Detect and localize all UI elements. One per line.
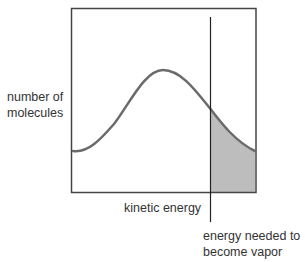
threshold-label-line1: energy needed to [203,228,300,244]
x-axis-label: kinetic energy [124,200,201,216]
y-axis-label-line1: number of [7,89,63,105]
energy-distribution-diagram [0,0,305,262]
threshold-label-line2: become vapor [203,244,282,260]
shaded-vapor-region [211,109,256,193]
y-axis-label-line2: molecules [7,105,63,121]
